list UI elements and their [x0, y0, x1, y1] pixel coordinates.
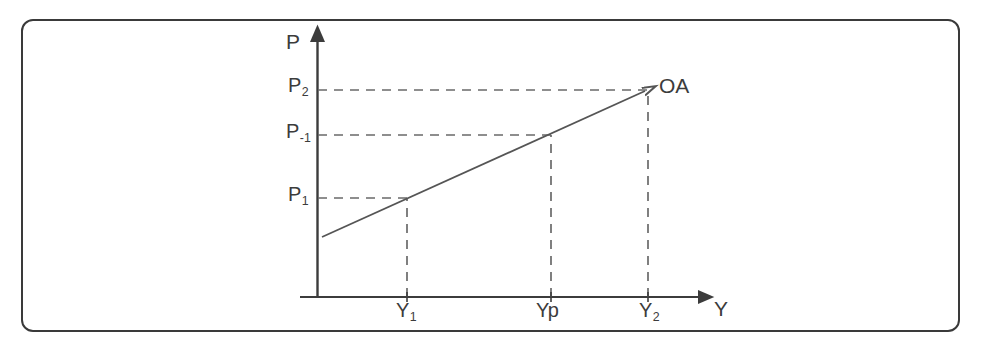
x-tick-label-y2: Y2	[639, 299, 659, 322]
y-tick-label-p1-sub: 1	[302, 194, 309, 208]
y-tick-label-p2: P2	[288, 74, 308, 97]
x-tick-label-yp-main: Yp	[536, 299, 559, 321]
y-tick-label-p1: P1	[288, 183, 308, 206]
y-tick-label-pm1: P-1	[286, 120, 310, 143]
x-tick-label-y1-main: Y	[396, 299, 409, 321]
x-tick-label-y1: Y1	[396, 299, 416, 322]
curve-label-oa: OA	[659, 74, 689, 98]
x-tick-label-y2-sub: 2	[653, 310, 660, 324]
y-axis-title: P	[286, 30, 300, 54]
oa-curve-line	[322, 91, 645, 237]
x-tick-label-y2-main: Y	[639, 299, 652, 321]
y-tick-label-p2-sub: 2	[302, 85, 309, 99]
y-tick-label-pm1-sub: -1	[300, 131, 311, 145]
x-axis-title: Y	[714, 297, 728, 321]
figure-root: P Y P2 P-1 P1 Y1 Yp Y2 OA	[0, 0, 981, 353]
y-tick-label-pm1-main: P	[286, 120, 299, 142]
x-tick-label-yp: Yp	[536, 299, 559, 322]
y-tick-label-p1-main: P	[288, 183, 301, 205]
y-tick-label-p2-main: P	[288, 74, 301, 96]
x-tick-label-y1-sub: 1	[410, 310, 417, 324]
chart-canvas	[0, 0, 981, 353]
